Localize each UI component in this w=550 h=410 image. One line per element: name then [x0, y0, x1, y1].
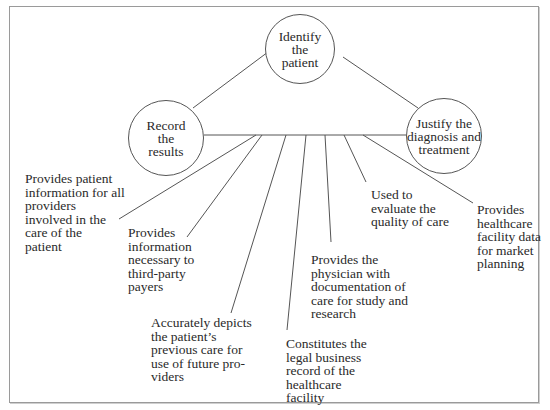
purpose-providers: Provides patient information for all pro…: [25, 172, 125, 254]
node-record-label: Record the results: [147, 119, 186, 158]
spoke-quality: [344, 135, 366, 182]
purpose-legal-record: Constitutes the legal business record of…: [286, 337, 367, 405]
node-identify-patient: Identify the patient: [265, 14, 335, 84]
purpose-quality: Used to evaluate the quality of care: [371, 188, 449, 229]
line-record-identify: [193, 52, 268, 108]
node-justify-diagnosis: Justify the diagnosis and treatment: [406, 98, 482, 174]
node-justify-label: Justify the diagnosis and treatment: [407, 117, 481, 156]
line-identify-justify: [343, 57, 418, 108]
node-identify-label: Identify the patient: [279, 30, 322, 69]
spoke-research: [325, 135, 331, 242]
node-record-results: Record the results: [128, 100, 204, 176]
purpose-research: Provides the physician with documentatio…: [311, 253, 408, 321]
purpose-market: Provides healthcare facility data for ma…: [477, 203, 541, 271]
spoke-previous-care: [231, 135, 286, 313]
purpose-payers: Provides information necessary to third-…: [128, 226, 194, 294]
purpose-previous-care: Accurately depicts the patient’s previou…: [151, 316, 252, 384]
spoke-legal-record: [287, 135, 306, 330]
